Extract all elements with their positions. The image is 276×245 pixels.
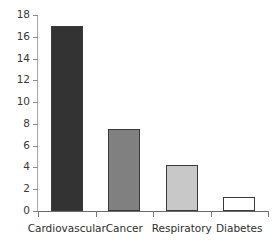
bar	[51, 26, 83, 211]
x-axis-tick-mark	[153, 211, 154, 217]
y-tick-label: 14	[17, 52, 30, 65]
bar	[166, 165, 198, 211]
x-axis-category-label: Respiratory	[152, 222, 212, 235]
x-axis-tick-mark	[38, 211, 39, 217]
y-tick-label: 4	[23, 160, 30, 173]
y-tick-label: 2	[23, 182, 30, 195]
y-tick-label: 16	[17, 30, 30, 43]
bar	[223, 197, 255, 211]
y-tick-label: 12	[17, 73, 30, 86]
bar	[108, 129, 140, 211]
y-tick-label: 6	[23, 139, 30, 152]
bar-chart: 024681012141618 CardiovascularCancerResp…	[0, 0, 276, 245]
x-axis-tick-mark	[96, 211, 97, 217]
y-tick-label: 10	[17, 95, 30, 108]
y-tick-label: 0	[23, 204, 30, 217]
x-axis-tick-mark	[268, 211, 269, 217]
x-axis-tick-mark	[211, 211, 212, 217]
y-tick-label: 8	[23, 117, 30, 130]
x-axis-category-label: Cancer	[106, 222, 143, 235]
y-tick-label: 18	[17, 8, 30, 21]
x-axis-category-label: Cardiovascular	[28, 222, 106, 235]
x-axis-category-label: Diabetes	[216, 222, 263, 235]
plot-area	[38, 15, 268, 211]
